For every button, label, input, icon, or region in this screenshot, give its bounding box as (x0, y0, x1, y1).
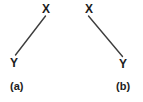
panel-a-node-x-label: X (42, 3, 50, 15)
panel-a-edge-x-y (16, 16, 46, 55)
panel-b-node-x-label: X (85, 3, 93, 15)
panel-b-caption: (b) (116, 80, 130, 92)
panel-a-caption: (a) (10, 80, 23, 92)
figure-container: X Y (a) X Y (b) (0, 0, 143, 102)
panel-b-node-y-label: Y (119, 58, 127, 70)
panel-b-edge-x-y (89, 16, 123, 57)
panel-a-node-y-label: Y (10, 57, 18, 69)
